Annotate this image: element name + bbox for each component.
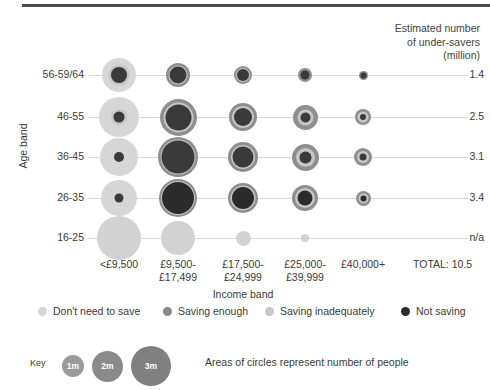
under-savers-value: 3.1	[420, 150, 484, 162]
bubble-cell[interactable]	[228, 142, 258, 172]
bubble-ring	[360, 195, 366, 201]
gridline-row	[88, 117, 468, 118]
age-band-label: 36-45	[0, 150, 84, 162]
bubble-ring	[162, 141, 195, 174]
bubble-ring	[165, 104, 191, 130]
legend-item-label: Don't need to save	[53, 305, 140, 317]
income-band-label-line2: £39,999	[284, 271, 325, 284]
bubble-ring	[360, 114, 366, 120]
age-band-label-wrap: 46-55	[0, 110, 84, 122]
key-circle: 1m	[62, 355, 84, 377]
bubble-cell[interactable]	[292, 185, 318, 211]
age-band-label-wrap: 56-59/64	[0, 68, 84, 80]
age-band-label-wrap: 36-45	[0, 150, 84, 162]
bubble-ring	[237, 69, 249, 81]
bubble-cell[interactable]	[293, 105, 318, 130]
bubble-ring	[360, 154, 367, 161]
income-band-label-line1: £9,500-	[159, 258, 197, 271]
gridline-row	[88, 198, 468, 199]
bubble-cell[interactable]	[229, 103, 257, 131]
bubble-ring	[161, 221, 195, 255]
key-circle: 3m	[131, 346, 171, 386]
bubble-cell[interactable]	[301, 234, 309, 242]
gridline-row	[88, 157, 468, 158]
under-savers-value: n/a	[420, 231, 484, 243]
age-band-label: 26-35	[0, 191, 84, 203]
bubble-cell[interactable]	[298, 68, 312, 82]
bubble-ring	[299, 151, 311, 163]
bubble-cell[interactable]	[100, 138, 138, 176]
income-band-label-line2: £24,999	[222, 271, 263, 284]
bubble-ring	[114, 112, 125, 123]
under-savers-value: 1.4	[420, 68, 484, 80]
bubble-cell[interactable]	[159, 179, 197, 217]
top-rule	[22, 4, 490, 7]
gridline-row	[88, 75, 468, 76]
note-line-3: (million)	[280, 49, 480, 63]
key-note: Areas of circles represent number of peo…	[205, 356, 409, 368]
bubble-ring	[301, 71, 310, 80]
income-band-label-line1: £17,500-	[222, 258, 263, 271]
legend-swatch-icon	[38, 307, 47, 316]
income-band-label: £40,000+	[341, 258, 385, 271]
bubble-ring	[115, 194, 124, 203]
bubble-cell[interactable]	[101, 180, 137, 216]
bubble-cell[interactable]	[97, 216, 141, 260]
income-band-label: £9,500-£17,499	[159, 258, 197, 284]
bubble-cell[interactable]	[160, 99, 197, 136]
income-band-label-line1: £25,000-	[284, 258, 325, 271]
bubble-cell[interactable]	[355, 109, 371, 125]
bubble-ring	[234, 108, 252, 126]
legend-swatch-icon	[265, 307, 274, 316]
bubble-ring	[360, 72, 366, 78]
bubble-ring	[301, 234, 309, 242]
bubble-cell[interactable]	[354, 148, 372, 166]
key-circle: 2m	[92, 351, 123, 382]
legend-item[interactable]: Saving inadequately	[265, 305, 375, 317]
bubble-cell[interactable]	[102, 58, 136, 92]
bubble-ring	[162, 182, 194, 214]
bubble-cell[interactable]	[359, 71, 368, 80]
under-savers-value: 3.4	[420, 191, 484, 203]
legend-item[interactable]: Don't need to save	[38, 305, 140, 317]
bubble-ring	[97, 216, 141, 260]
legend-item-label: Not saving	[416, 305, 466, 317]
bubble-cell[interactable]	[234, 66, 252, 84]
estimated-under-savers-note: Estimated number of under-savers (millio…	[280, 22, 480, 63]
legend-swatch-icon	[401, 307, 410, 316]
note-line-2: of under-savers	[280, 36, 480, 50]
bubble-cell[interactable]	[228, 183, 258, 213]
legend-item[interactable]: Saving enough	[163, 305, 248, 317]
bubble-cell[interactable]	[158, 137, 198, 177]
bubble-cell[interactable]	[161, 221, 195, 255]
bubble-cell[interactable]	[166, 63, 190, 87]
income-band-label-line1: <£9,500	[100, 258, 138, 271]
gridline-row	[88, 238, 468, 239]
income-band-label: £17,500-£24,999	[222, 258, 263, 284]
bubble-cell[interactable]	[292, 144, 319, 171]
bubble-ring	[298, 191, 313, 206]
under-savers-value: 2.5	[420, 110, 484, 122]
age-band-label-wrap: 26-35	[0, 191, 84, 203]
bubble-ring	[111, 67, 127, 83]
bubble-cell[interactable]	[236, 231, 251, 246]
chart-canvas: Estimated number of under-savers (millio…	[0, 0, 490, 390]
note-line-1: Estimated number	[280, 22, 480, 36]
age-band-label-wrap: 16-25	[0, 231, 84, 243]
legend-item-label: Saving inadequately	[280, 305, 375, 317]
income-band-label: £25,000-£39,999	[284, 258, 325, 284]
legend-swatch-icon	[163, 307, 172, 316]
bubble-ring	[170, 67, 187, 84]
key-label: Key	[30, 358, 46, 368]
income-band-label-line2: £17,499	[159, 271, 197, 284]
chart-legend: Don't need to saveSaving enoughSaving in…	[38, 305, 458, 323]
legend-item[interactable]: Not saving	[401, 305, 466, 317]
age-band-label: 46-55	[0, 110, 84, 122]
bubble-ring	[233, 147, 254, 168]
income-band-label-line1: £40,000+	[341, 258, 385, 271]
income-band-label: <£9,500	[100, 258, 138, 271]
bubble-cell[interactable]	[99, 97, 139, 137]
bubble-ring	[114, 152, 124, 162]
bubble-cell[interactable]	[356, 191, 371, 206]
age-band-label: 56-59/64	[0, 68, 84, 80]
